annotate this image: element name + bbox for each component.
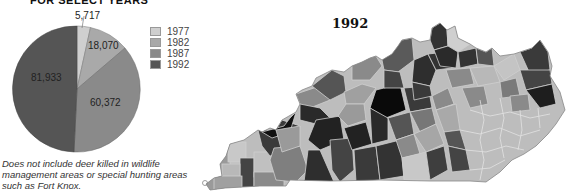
kentucky-county-map (0, 0, 569, 193)
